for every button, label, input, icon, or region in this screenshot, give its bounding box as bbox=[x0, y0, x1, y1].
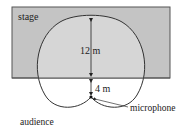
distance-4m-label: 4 m bbox=[95, 83, 111, 94]
audience-label: audience bbox=[20, 117, 54, 127]
microphone-label: microphone bbox=[130, 103, 175, 113]
stage-label: stage bbox=[18, 11, 39, 22]
cardioid-diagram: stage 12 m 4 m microphone audience bbox=[0, 0, 187, 132]
distance-12m-label: 12 m bbox=[80, 45, 101, 56]
microphone-icon bbox=[89, 95, 92, 98]
microphone-leader-line bbox=[95, 99, 128, 107]
